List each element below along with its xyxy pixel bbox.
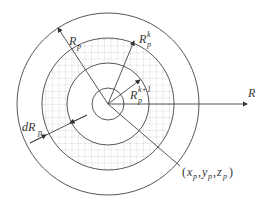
svg-text:dR: dR xyxy=(22,120,36,134)
svg-text:(: ( xyxy=(182,165,186,179)
svg-text:p: p xyxy=(192,172,197,181)
svg-text:x: x xyxy=(186,165,193,179)
svg-text:p: p xyxy=(207,172,212,181)
svg-text:y: y xyxy=(201,165,208,179)
label-drp: dR p xyxy=(22,120,42,137)
label-point-coordinates: ( x p , y p , z p ) xyxy=(182,165,233,181)
svg-text:R: R xyxy=(68,34,77,48)
svg-text:,: , xyxy=(198,165,201,179)
svg-text:p: p xyxy=(222,172,227,181)
svg-text:k+1: k+1 xyxy=(138,85,151,94)
svg-text:p: p xyxy=(146,40,151,49)
svg-text:p: p xyxy=(37,128,42,137)
svg-text:,: , xyxy=(213,165,216,179)
svg-text:p: p xyxy=(76,42,81,51)
svg-text:k: k xyxy=(147,30,151,39)
svg-text:p: p xyxy=(137,96,142,105)
svg-text:): ) xyxy=(229,165,233,179)
label-r-axis: R xyxy=(247,86,256,100)
svg-text:R: R xyxy=(129,88,138,102)
svg-text:R: R xyxy=(138,32,147,46)
particle-shell-diagram: R R p R k p R k+1 p dR p ( x p , y p , z… xyxy=(0,0,265,202)
svg-text:z: z xyxy=(216,165,222,179)
